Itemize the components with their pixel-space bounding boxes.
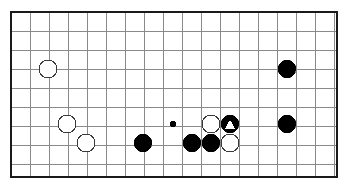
black-stone-left-center[interactable] [134,134,152,152]
hoshi-center-left [170,121,176,127]
white-stone-left-upper[interactable] [58,115,76,133]
board-background [0,0,349,190]
black-stone-center-lower-right[interactable] [202,134,220,152]
board-canvas[interactable] [0,0,349,190]
white-stone-upper-left[interactable] [39,60,57,78]
black-stone-right-lower[interactable] [278,115,296,133]
board-surface[interactable] [0,0,349,190]
white-stone-center-lower[interactable] [221,134,239,152]
black-stone-upper-right[interactable] [278,60,296,78]
hoshi-points-layer [170,121,176,127]
white-stone-center-upper[interactable] [202,115,220,133]
black-stone-center-lower-left[interactable] [183,134,201,152]
white-stone-left-lower[interactable] [77,134,95,152]
go-board-diagram [0,0,349,190]
